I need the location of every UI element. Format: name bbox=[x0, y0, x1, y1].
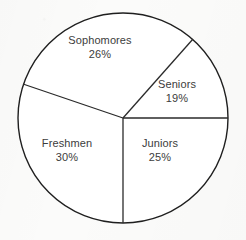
pie-slice-juniors[interactable] bbox=[123, 118, 228, 223]
slice-label-freshmen-value: 30% bbox=[17, 150, 117, 164]
slice-label-freshmen-name: Freshmen bbox=[17, 136, 117, 150]
pie-chart-figure: Freshmen 30% Sophomores 26% Seniors 19% … bbox=[0, 0, 246, 240]
slice-label-sophomores: Sophomores 26% bbox=[50, 33, 150, 61]
slice-label-sophomores-name: Sophomores bbox=[50, 33, 150, 47]
slice-label-juniors-name: Juniors bbox=[120, 136, 200, 150]
slice-label-juniors: Juniors 25% bbox=[120, 136, 200, 164]
slice-label-sophomores-value: 26% bbox=[50, 47, 150, 61]
slice-label-seniors-name: Seniors bbox=[137, 77, 217, 91]
slice-label-juniors-value: 25% bbox=[120, 150, 200, 164]
slice-label-seniors-value: 19% bbox=[137, 91, 217, 105]
slice-label-seniors: Seniors 19% bbox=[137, 77, 217, 105]
slice-label-freshmen: Freshmen 30% bbox=[17, 136, 117, 164]
